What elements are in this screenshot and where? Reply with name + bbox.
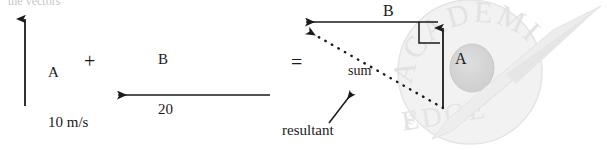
- equals-sign: =: [291, 51, 302, 73]
- resultant-callout-arrow: [329, 93, 352, 123]
- left-vector-b-magnitude: 20: [158, 101, 188, 118]
- sum-label: sum: [348, 63, 371, 79]
- plus-sign: +: [84, 50, 95, 72]
- right-vector-a-label: A: [455, 50, 467, 68]
- left-vector-a-name: A: [48, 64, 88, 81]
- resultant-label: resultant: [282, 122, 334, 139]
- left-vector-a-label: A 10 m/s North: [48, 30, 88, 150]
- left-vector-a-magnitude: 10 m/s: [48, 114, 88, 131]
- cropped-heading-text: the vectors: [8, 0, 60, 9]
- left-vector-b-name: B: [158, 51, 188, 68]
- vector-addition-figure: ACADEMIC EDGE THE: [0, 0, 607, 150]
- left-vector-b-label: B 20 m/s West: [158, 17, 188, 150]
- right-vector-b-label: B: [383, 2, 394, 20]
- right-angle-marker: [419, 22, 440, 43]
